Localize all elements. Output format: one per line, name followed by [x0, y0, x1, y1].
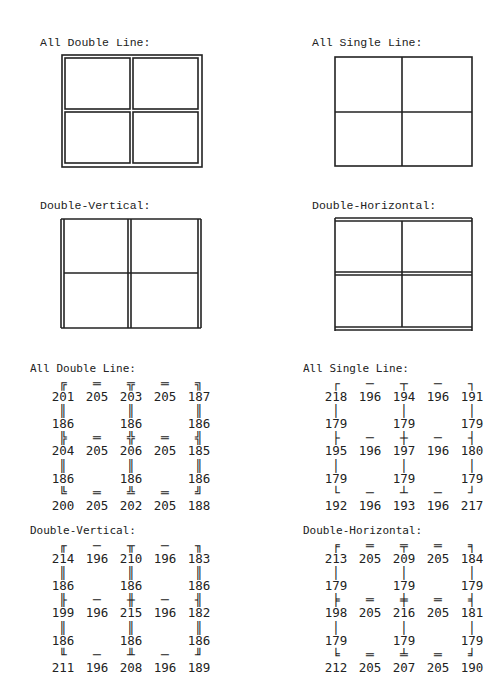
box-drawing-glyph: │: [455, 459, 489, 471]
box-drawing-glyph: ╫: [114, 594, 148, 606]
box-drawing-glyph: ─: [353, 486, 387, 498]
ascii-code: 182: [182, 606, 216, 620]
box-drawing-glyph: ╙: [46, 648, 80, 660]
code-cell: │179: [319, 459, 353, 486]
box-drawing-glyph: │: [455, 621, 489, 633]
code-cell: ╬206: [114, 431, 148, 458]
code-cell: │179: [455, 566, 489, 593]
code-cell: ╥210: [114, 539, 148, 566]
ascii-code: 205: [353, 661, 387, 675]
table-label-all-double: All Double Line:: [30, 362, 136, 375]
box-drawing-glyph: ╢: [182, 594, 216, 606]
code-cell: ╗187: [182, 377, 216, 404]
ascii-code: 206: [114, 444, 148, 458]
ascii-code: 205: [148, 444, 182, 458]
ascii-code: 198: [319, 606, 353, 620]
box-drawing-glyph: ─: [421, 432, 455, 444]
code-cell: ╦203: [114, 377, 148, 404]
ascii-code: 184: [455, 552, 489, 566]
box-drawing-glyph: ╕: [455, 540, 489, 552]
ascii-code: 186: [114, 634, 148, 648]
box-drawing-glyph: ╡: [455, 594, 489, 606]
box-diagram-double-horizontal: [334, 217, 473, 332]
box-drawing-glyph: ═: [353, 594, 387, 606]
box-drawing-glyph: ║: [46, 405, 80, 417]
box-drawing-glyph: ╦: [114, 378, 148, 390]
box-drawing-glyph: ║: [182, 567, 216, 579]
box-drawing-glyph: ╣: [182, 432, 216, 444]
code-cell: ╝188: [182, 486, 216, 513]
ascii-code: 179: [319, 472, 353, 486]
box-drawing-glyph: │: [455, 405, 489, 417]
ascii-code: 179: [387, 472, 421, 486]
code-cell: ─196: [80, 539, 114, 566]
ascii-code: 196: [421, 444, 455, 458]
ascii-code: 205: [421, 606, 455, 620]
code-cell: ╣185: [182, 431, 216, 458]
ascii-code: 195: [319, 444, 353, 458]
ascii-code: 218: [319, 390, 353, 404]
code-cell: ╚200: [46, 486, 80, 513]
ascii-code: 196: [148, 606, 182, 620]
ascii-code: 186: [182, 417, 216, 431]
code-cell: ╡181: [455, 593, 489, 620]
box-drawing-glyph: ─: [353, 432, 387, 444]
code-cell: ┼197: [387, 431, 421, 458]
ascii-code: 196: [80, 661, 114, 675]
box-drawing-glyph: ─: [80, 648, 114, 660]
code-cell: ├195: [319, 431, 353, 458]
ascii-code: 196: [148, 661, 182, 675]
ascii-code: 205: [421, 552, 455, 566]
code-cell: ═205: [421, 648, 455, 675]
box-drawing-glyph: ╗: [182, 378, 216, 390]
box-drawing-glyph: ┌: [319, 378, 353, 390]
box-drawing-glyph: ┼: [387, 432, 421, 444]
box-drawing-glyph: ╧: [387, 648, 421, 660]
box-drawing-glyph: ╟: [46, 594, 80, 606]
code-cell: ║186: [182, 621, 216, 648]
code-cell: ║186: [46, 621, 80, 648]
ascii-code: 205: [353, 552, 387, 566]
ascii-code: 179: [387, 634, 421, 648]
code-cell: │179: [387, 566, 421, 593]
code-cell: ┐191: [455, 377, 489, 404]
box-drawing-glyph: ═: [148, 432, 182, 444]
code-cell: └192: [319, 486, 353, 513]
code-cell: │179: [387, 621, 421, 648]
code-cell: ║186: [182, 566, 216, 593]
code-cell: ╜189: [182, 648, 216, 675]
ascii-code: 189: [182, 661, 216, 675]
box-diagram-all-single: [334, 56, 473, 168]
box-drawing-glyph: ═: [80, 378, 114, 390]
box-diagram-all-double: [61, 54, 203, 169]
ascii-code: 186: [114, 417, 148, 431]
ascii-code: 216: [387, 606, 421, 620]
box-drawing-glyph: ─: [148, 648, 182, 660]
box-drawing-glyph: │: [387, 567, 421, 579]
ascii-code: 210: [114, 552, 148, 566]
box-drawing-glyph: │: [387, 459, 421, 471]
box-drawing-glyph: ║: [114, 459, 148, 471]
box-drawing-glyph: ─: [421, 378, 455, 390]
box-drawing-glyph: ║: [46, 459, 80, 471]
ascii-code: 196: [80, 552, 114, 566]
box-drawing-glyph: ╛: [455, 648, 489, 660]
code-cell: ╒213: [319, 539, 353, 566]
ascii-code: 194: [387, 390, 421, 404]
ascii-code: 186: [46, 579, 80, 593]
code-cell: │179: [455, 404, 489, 431]
box-drawing-glyph: ╞: [319, 594, 353, 606]
box-drawing-glyph: ╪: [387, 594, 421, 606]
box-drawing-glyph: ║: [182, 459, 216, 471]
code-cell: ║186: [46, 404, 80, 431]
box-drawing-glyph: │: [387, 621, 421, 633]
code-cell: │179: [319, 404, 353, 431]
ascii-code: 196: [148, 552, 182, 566]
ascii-code: 186: [114, 472, 148, 486]
ascii-code: 203: [114, 390, 148, 404]
ascii-code: 186: [182, 634, 216, 648]
ascii-code: 179: [387, 417, 421, 431]
box-drawing-glyph: ═: [421, 594, 455, 606]
code-cell: ╫215: [114, 593, 148, 620]
diagram-label-double-vertical: Double-Vertical:: [40, 199, 150, 212]
